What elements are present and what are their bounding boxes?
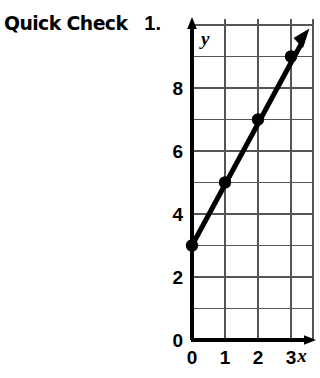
worksheet-page: Quick Check1. (0, 0, 320, 378)
x-tick-label: 2 (253, 347, 264, 368)
data-point (219, 176, 231, 188)
y-tick-label: 0 (172, 330, 183, 351)
data-point (186, 239, 198, 251)
coordinate-graph: 0 2 4 6 8 0 1 2 3 y x (155, 8, 320, 374)
y-tick-label: 8 (172, 78, 183, 99)
x-tick-labels: 0 1 2 3 (187, 347, 297, 368)
plot-background (192, 19, 313, 340)
y-tick-labels: 0 2 4 6 8 (172, 78, 183, 351)
data-point (252, 113, 264, 125)
x-tick-label: 3 (286, 347, 297, 368)
data-point (285, 50, 297, 62)
y-tick-label: 2 (172, 267, 183, 288)
quick-check-heading: Quick Check1. (4, 11, 174, 39)
x-axis-label: x (296, 345, 307, 366)
y-axis-label: y (199, 28, 210, 49)
x-tick-label: 0 (187, 347, 198, 368)
graph-svg: 0 2 4 6 8 0 1 2 3 y x (155, 8, 320, 374)
y-tick-label: 4 (172, 204, 183, 225)
x-tick-label: 1 (220, 347, 231, 368)
quick-check-label: Quick Check (4, 11, 127, 35)
y-tick-label: 6 (172, 141, 183, 162)
